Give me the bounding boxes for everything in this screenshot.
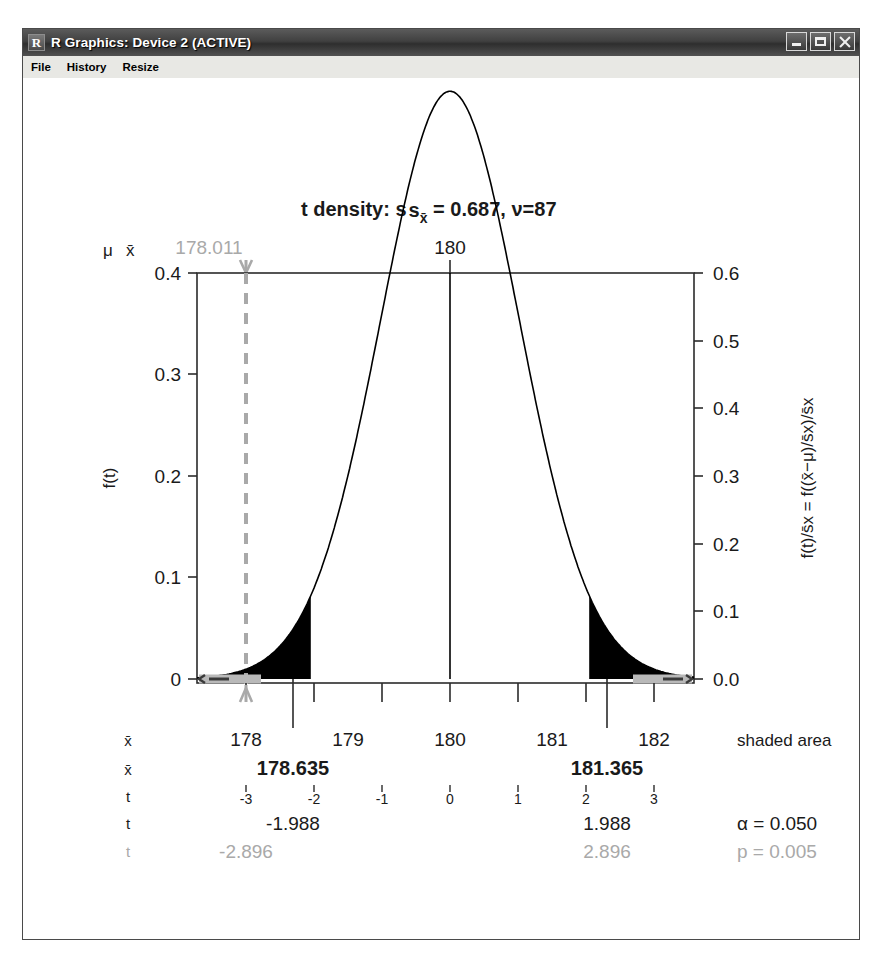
top-tick-label-mean: 180: [434, 237, 466, 258]
t-observed-values: -2.896 2.896 p = 0.005: [219, 841, 817, 862]
right-tick-label-4: 0.4: [713, 398, 740, 419]
t-obs-high: 2.896: [583, 841, 631, 862]
xbar-tick-label-3: 181: [536, 729, 568, 750]
t-critical-values: -1.988 1.988 α = 0.050: [266, 813, 817, 834]
right-axis: 0.6 0.5 0.4 0.3 0.2 0.1 0.0 f(t)/s̄x = f…: [694, 263, 817, 690]
right-tick-label-3: 0.3: [713, 466, 739, 487]
t-axis-ticks: -3 -2 -1 0 1 2 3: [240, 785, 658, 807]
bottom-axis-xbar: [246, 683, 654, 702]
maximize-button[interactable]: [810, 32, 831, 51]
top-label-mu: μ: [103, 241, 113, 260]
left-tick-label-0: 0: [170, 669, 181, 690]
plot-title-text: t density: ssx̄ = 0.687, ν=87: [301, 198, 557, 226]
r-logo-icon: R: [28, 34, 45, 51]
xbar-tick-label-4: 182: [638, 729, 670, 750]
menu-resize[interactable]: Resize: [114, 57, 166, 77]
right-tick-label-1: 0.1: [713, 601, 739, 622]
left-tick-label-1: 0.1: [155, 567, 181, 588]
plot-frame: [197, 273, 694, 683]
crit-xbar-low: 178.635: [257, 757, 329, 779]
density-curve: [197, 91, 694, 677]
observed-marker-top-icon: [240, 260, 252, 274]
t-tick-label-4: 1: [514, 791, 522, 807]
row-label-t-crit: t: [126, 815, 131, 832]
t-tick-label-0: -3: [240, 791, 253, 807]
critical-xbar-values: 178.635 181.365: [257, 757, 643, 779]
xbar-tick-labels: 178 179 180 181 182 shaded area: [230, 729, 832, 750]
top-label-xbar: x̄: [126, 241, 135, 260]
r-graphics-window: R R Graphics: Device 2 (ACTIVE) File His…: [22, 28, 860, 940]
shaded-area-label: shaded area: [737, 731, 832, 750]
right-tick-label-5: 0.5: [713, 331, 739, 352]
right-tick-label-2: 0.2: [713, 534, 739, 555]
row-label-xbar-axis: x̄: [124, 732, 132, 749]
graphics-canvas: t density: ssx̄ = 0.687, ν=87 μ x̄ 178.0…: [23, 78, 859, 939]
minimize-button[interactable]: [786, 32, 807, 51]
left-axis-title: f(t): [100, 468, 119, 489]
observed-marker-bottom-icon: [240, 685, 252, 702]
menu-file[interactable]: File: [23, 57, 59, 77]
t-tick-label-1: -2: [308, 791, 321, 807]
right-axis-title: f(t)/s̄x = f((x̄−μ)/s̄x)/s̄x: [798, 397, 817, 558]
t-obs-low: -2.896: [219, 841, 273, 862]
right-tick-label-0: 0.0: [713, 669, 739, 690]
left-tick-label-4: 0.4: [155, 263, 182, 284]
window-titlebar[interactable]: R R Graphics: Device 2 (ACTIVE): [23, 29, 859, 56]
top-tick-label-observed: 178.011: [175, 237, 242, 258]
row-label-xbar-crit: x̄: [124, 761, 132, 778]
t-density-plot: t density: ssx̄ = 0.687, ν=87 μ x̄ 178.0…: [23, 78, 859, 939]
left-axis: 0.4 0.3 0.2 0.1 0 f(t): [100, 263, 197, 690]
row-label-t-obs: t: [126, 843, 131, 860]
t-crit-low: -1.988: [266, 813, 320, 834]
alpha-label: α = 0.050: [737, 813, 817, 834]
t-tick-label-2: -1: [376, 791, 389, 807]
plot-title: t density: ssx̄ = 0.687, ν=87: [301, 198, 557, 226]
window-controls: [786, 32, 855, 51]
xbar-tick-label-1: 179: [332, 729, 364, 750]
row-labels: x̄ x̄ t t t: [124, 732, 132, 860]
t-tick-label-5: 2: [582, 791, 590, 807]
menu-history[interactable]: History: [59, 57, 115, 77]
right-tail-shade: [589, 596, 694, 679]
left-tick-label-3: 0.3: [155, 364, 181, 385]
t-tick-label-6: 3: [650, 791, 658, 807]
t-tick-label-3: 0: [446, 791, 454, 807]
xbar-tick-label-0: 178: [230, 729, 262, 750]
window-title: R Graphics: Device 2 (ACTIVE): [51, 35, 251, 50]
row-label-t-axis: t: [126, 788, 131, 805]
right-tick-label-6: 0.6: [713, 263, 739, 284]
menubar: File History Resize: [23, 56, 859, 79]
t-crit-high: 1.988: [583, 813, 631, 834]
xbar-tick-label-2: 180: [434, 729, 466, 750]
close-button[interactable]: [834, 32, 855, 51]
p-value-label: p = 0.005: [737, 841, 817, 862]
left-tick-label-2: 0.2: [155, 466, 181, 487]
crit-xbar-high: 181.365: [571, 757, 643, 779]
density-shading: [197, 596, 694, 679]
